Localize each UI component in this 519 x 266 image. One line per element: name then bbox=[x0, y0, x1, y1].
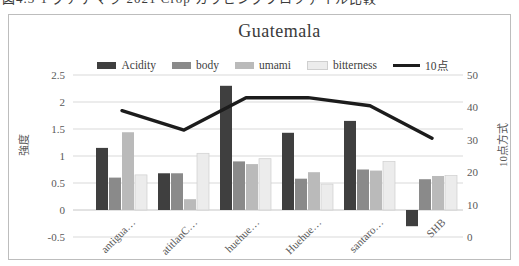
left-axis-tick-label: 2.5 bbox=[29, 68, 65, 82]
right-axis-tick-label: 50 bbox=[467, 68, 503, 82]
left-axis-title: 強度 bbox=[15, 134, 31, 156]
bar-umami bbox=[246, 164, 258, 210]
left-axis-tick-label: 1.5 bbox=[29, 122, 65, 136]
right-axis-tick-label: 40 bbox=[467, 100, 503, 114]
bar-body bbox=[357, 170, 369, 211]
left-axis-tick-label: 2 bbox=[29, 95, 65, 109]
bar-umami bbox=[184, 199, 196, 210]
bar-bitterness bbox=[259, 159, 271, 210]
right-axis-tick-label: 10 bbox=[467, 198, 503, 212]
bar-body bbox=[419, 179, 431, 210]
bar-acidity bbox=[96, 148, 108, 210]
bar-body bbox=[171, 173, 183, 210]
chart: Guatemala Aciditybodyumamibitterness10点 … bbox=[8, 14, 511, 260]
page: { "caption_fragment": "図4.3-1 グアテマラ 2021… bbox=[0, 0, 519, 266]
left-axis-tick-label: -0.5 bbox=[29, 230, 65, 244]
right-axis-tick-label: 20 bbox=[467, 165, 503, 179]
bar-body bbox=[109, 178, 121, 210]
bar-acidity bbox=[406, 210, 418, 226]
bar-umami bbox=[432, 176, 444, 210]
right-axis-tick-label: 0 bbox=[467, 230, 503, 244]
bar-body bbox=[295, 179, 307, 210]
bar-umami bbox=[308, 172, 320, 210]
left-axis-tick-label: 1 bbox=[29, 149, 65, 163]
bar-acidity bbox=[282, 133, 294, 210]
bar-acidity bbox=[158, 173, 170, 210]
bar-umami bbox=[370, 171, 382, 210]
bar-acidity bbox=[344, 121, 356, 210]
bar-bitterness bbox=[321, 184, 333, 210]
right-axis-title: 10点方式 bbox=[494, 123, 510, 167]
bar-bitterness bbox=[445, 175, 457, 210]
bar-umami bbox=[122, 132, 134, 210]
bar-bitterness bbox=[135, 175, 147, 210]
score-line-10点 bbox=[122, 98, 432, 138]
page-caption-clipped: 図4.3-1 グアテマラ 2021 Crop カッピングプロファイル比較 bbox=[2, 0, 422, 6]
bar-bitterness bbox=[383, 161, 395, 210]
bar-bitterness bbox=[197, 153, 209, 210]
bar-body bbox=[233, 161, 245, 210]
left-axis-tick-label: 0 bbox=[29, 203, 65, 217]
page-caption-text: 図4.3-1 グアテマラ 2021 Crop カッピングプロファイル比較 bbox=[2, 0, 422, 6]
left-axis-tick-label: 0.5 bbox=[29, 176, 65, 190]
